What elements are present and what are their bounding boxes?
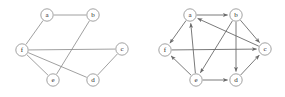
edge-right-f-c [172,49,257,50]
node-label-left-e: e [51,76,54,84]
edge-left-f-c [29,49,115,50]
node-left-b[interactable]: b [87,9,99,21]
node-label-right-d: d [234,76,238,84]
edge-right-c-a [198,18,259,46]
node-left-a[interactable]: a [41,9,53,21]
node-label-right-e: e [194,76,197,84]
graph-figure: abcdefabcdef [0,0,285,97]
edge-right-e-f [171,56,191,75]
edge-group-right [170,15,260,80]
edge-group-left [26,15,117,77]
node-left-f[interactable]: f [16,44,28,56]
node-left-e[interactable]: e [47,74,59,86]
edge-right-d-c [241,55,260,75]
edge-left-f-e [27,55,48,76]
node-label-left-c: c [120,45,123,53]
node-group-right: abcdef [159,9,271,86]
node-group-left: abcdef [16,9,128,86]
edge-left-c-d [98,54,118,75]
graph-canvas: abcdefabcdef [0,0,285,97]
node-label-right-c: c [263,45,266,53]
node-right-e[interactable]: e [190,74,202,86]
node-label-left-b: b [91,11,95,19]
edge-right-e-a [191,23,196,73]
node-label-left-d: d [91,76,95,84]
edge-left-b-e [57,21,90,74]
edge-right-b-e [200,21,232,73]
node-right-d[interactable]: d [230,74,242,86]
node-right-f[interactable]: f [159,44,171,56]
node-right-a[interactable]: a [184,9,196,21]
node-label-right-b: b [234,11,238,19]
nodes-layer: abcdefabcdef [16,9,271,86]
edges-layer [26,15,260,80]
node-left-d[interactable]: d [87,74,99,86]
node-left-c[interactable]: c [116,43,128,55]
node-right-c[interactable]: c [259,43,271,55]
edge-left-a-f [26,21,43,45]
edge-right-a-f [170,21,186,44]
node-right-b[interactable]: b [230,9,242,21]
